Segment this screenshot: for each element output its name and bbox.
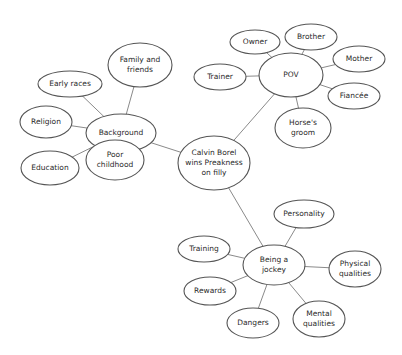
node-early-races: Early races xyxy=(38,71,102,97)
nodes-layer: Calvin Borelwins Preaknesson fillyBackgr… xyxy=(20,24,385,338)
node-rewards: Rewards xyxy=(184,277,236,305)
mind-map-diagram: Calvin Borelwins Preaknesson fillyBackgr… xyxy=(0,0,402,355)
node-jockey: Being ajockey xyxy=(243,245,305,285)
node-family: Family andfriends xyxy=(108,43,172,87)
node-physical: Physicalqualities xyxy=(329,251,381,287)
node-label: Family and xyxy=(120,55,161,64)
node-dangers: Dangers xyxy=(227,308,279,338)
node-education: Education xyxy=(21,151,79,185)
node-label: Rewards xyxy=(194,286,226,295)
node-label: POV xyxy=(283,70,299,79)
node-label: Religion xyxy=(31,117,61,126)
node-owner: Owner xyxy=(230,30,280,54)
node-label: Fiancée xyxy=(340,91,369,100)
node-label: Training xyxy=(188,244,219,253)
node-label: Personality xyxy=(283,209,325,218)
node-label: Dangers xyxy=(237,318,269,327)
node-label: qualities xyxy=(339,269,371,278)
node-brother: Brother xyxy=(285,24,337,50)
node-label: Poor xyxy=(107,150,124,159)
node-label: Calvin Borel xyxy=(192,148,237,157)
node-label: qualities xyxy=(303,319,335,328)
mind-map-canvas: Calvin Borelwins Preaknesson fillyBackgr… xyxy=(0,0,402,355)
node-label: jockey xyxy=(261,265,286,274)
node-label: on filly xyxy=(201,168,227,177)
node-center: Calvin Borelwins Preaknesson filly xyxy=(178,136,250,190)
node-label: Trainer xyxy=(206,72,234,81)
node-horses-groom: Horse'sgroom xyxy=(275,108,331,148)
node-personality: Personality xyxy=(274,200,334,228)
node-trainer: Trainer xyxy=(194,64,246,90)
node-label: groom xyxy=(291,128,315,137)
node-religion: Religion xyxy=(20,106,72,138)
node-fiancee: Fiancée xyxy=(328,83,380,109)
node-label: Education xyxy=(31,163,69,172)
node-label: Owner xyxy=(243,37,268,46)
node-poor-childhood: Poorchildhood xyxy=(86,140,144,180)
node-label: Mental xyxy=(306,309,331,318)
node-label: Being a xyxy=(260,255,288,264)
node-label: Brother xyxy=(297,32,326,41)
node-mental: Mentalqualities xyxy=(293,301,345,337)
node-label: Horse's xyxy=(289,118,317,127)
node-label: friends xyxy=(127,65,153,74)
node-label: Early races xyxy=(49,79,91,88)
node-pov: POV xyxy=(259,53,323,97)
node-mother: Mother xyxy=(333,46,385,72)
node-label: wins Preakness xyxy=(185,158,242,167)
node-training: Training xyxy=(178,236,230,262)
node-label: childhood xyxy=(97,160,134,169)
node-label: Mother xyxy=(346,54,373,63)
node-label: Physical xyxy=(340,259,371,268)
node-label: Background xyxy=(99,128,144,137)
